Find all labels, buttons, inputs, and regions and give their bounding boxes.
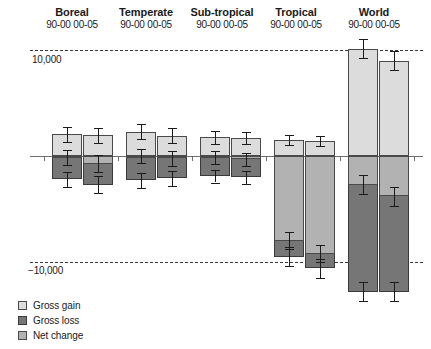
group-periods: 90-00 00-05 bbox=[36, 19, 108, 31]
error-bar-gross-gain bbox=[141, 124, 142, 139]
error-bar-net-change-cap bbox=[211, 151, 220, 152]
error-bar-gross-gain-cap bbox=[390, 70, 399, 71]
legend-item-net-change: Net change bbox=[18, 328, 83, 343]
error-bar-gross-gain bbox=[246, 132, 247, 145]
legend-item-gross-gain: Gross gain bbox=[18, 298, 83, 313]
legend-label: Gross loss bbox=[33, 315, 79, 326]
error-bar-gross-gain-cap bbox=[63, 142, 72, 143]
error-bar-net-change-cap bbox=[316, 245, 325, 246]
group-header-temperate: Temperate 90-00 00-05 bbox=[110, 6, 182, 31]
chart-legend: Gross gain Gross loss Net change bbox=[18, 298, 83, 343]
error-bar-gross-loss-cap bbox=[359, 282, 368, 283]
error-bar-gross-gain-cap bbox=[316, 136, 325, 137]
error-bar-net-change bbox=[98, 155, 99, 172]
error-bar-net-change-cap bbox=[94, 155, 103, 156]
error-bar-gross-gain-cap bbox=[137, 139, 146, 140]
axis-tick bbox=[118, 156, 119, 161]
error-bar-net-change-cap bbox=[168, 166, 177, 167]
error-bar-net-change bbox=[67, 150, 68, 165]
error-bar-net-change-cap bbox=[137, 149, 146, 150]
axis-tick bbox=[192, 156, 193, 161]
error-bar-gross-loss-cap bbox=[63, 187, 72, 188]
error-bar-gross-gain-cap bbox=[94, 143, 103, 144]
axis-tick bbox=[44, 156, 45, 161]
bar-net-change bbox=[305, 156, 335, 254]
error-bar-gross-gain-cap bbox=[211, 131, 220, 132]
group-header-boreal: Boreal 90-00 00-05 bbox=[36, 6, 108, 31]
error-bar-gross-loss-cap bbox=[211, 183, 220, 184]
error-bar-gross-gain-cap bbox=[63, 127, 72, 128]
gridline-label-top: 10,000 bbox=[32, 54, 61, 65]
error-bar-gross-loss-cap bbox=[390, 301, 399, 302]
bar-net-change bbox=[274, 156, 304, 241]
axis-tick bbox=[414, 156, 415, 161]
group-title: Sub-tropical bbox=[182, 6, 262, 18]
error-bar-gross-gain bbox=[394, 51, 395, 70]
error-bar-net-change-cap bbox=[137, 163, 146, 164]
error-bar-net-change-cap bbox=[168, 151, 177, 152]
error-bar-gross-loss-cap bbox=[390, 282, 399, 283]
axis-tick bbox=[266, 156, 267, 161]
error-bar-gross-gain bbox=[172, 128, 173, 143]
error-bar-net-change bbox=[289, 232, 290, 249]
legend-label: Net change bbox=[33, 330, 83, 341]
error-bar-net-change-cap bbox=[242, 166, 251, 167]
legend-swatch-icon bbox=[18, 331, 27, 340]
error-bar-net-change-cap bbox=[63, 150, 72, 151]
error-bar-gross-loss-cap bbox=[168, 186, 177, 187]
error-bar-net-change-cap bbox=[211, 164, 220, 165]
error-bar-net-change-cap bbox=[94, 172, 103, 173]
error-bar-net-change-cap bbox=[63, 165, 72, 166]
group-header-world: World 90-00 00-05 bbox=[334, 6, 414, 31]
error-bar-gross-loss-cap bbox=[285, 266, 294, 267]
error-bar-gross-loss bbox=[363, 282, 364, 301]
error-bar-gross-gain-cap bbox=[94, 128, 103, 129]
legend-label: Gross gain bbox=[33, 300, 80, 311]
error-bar-gross-gain-cap bbox=[242, 132, 251, 133]
plot-area bbox=[30, 40, 423, 298]
legend-swatch-icon bbox=[18, 301, 27, 310]
error-bar-gross-gain bbox=[67, 127, 68, 142]
group-title: Boreal bbox=[36, 6, 108, 18]
error-bar-gross-loss-cap bbox=[94, 176, 103, 177]
group-title: World bbox=[334, 6, 414, 18]
group-periods: 90-00 00-05 bbox=[110, 19, 182, 31]
error-bar-gross-gain-cap bbox=[168, 128, 177, 129]
error-bar-gross-gain bbox=[363, 39, 364, 58]
error-bar-net-change-cap bbox=[285, 249, 294, 250]
forest-change-bar-chart: Boreal 90-00 00-05 Temperate 90-00 00-05… bbox=[0, 0, 431, 349]
error-bar-gross-gain-cap bbox=[211, 144, 220, 145]
bar-gross-gain bbox=[379, 61, 409, 156]
error-bar-gross-loss bbox=[215, 170, 216, 183]
group-header-sub-tropical: Sub-tropical 90-00 00-05 bbox=[182, 6, 262, 31]
error-bar-net-change-cap bbox=[359, 175, 368, 176]
error-bar-net-change bbox=[320, 245, 321, 262]
error-bar-gross-loss-cap bbox=[242, 171, 251, 172]
error-bar-net-change-cap bbox=[390, 206, 399, 207]
error-bar-net-change bbox=[363, 175, 364, 194]
error-bar-gross-loss bbox=[141, 173, 142, 188]
error-bar-gross-gain-cap bbox=[242, 144, 251, 145]
bar-gross-gain bbox=[348, 49, 378, 156]
error-bar-gross-loss-cap bbox=[316, 278, 325, 279]
error-bar-net-change bbox=[394, 187, 395, 206]
error-bar-gross-loss bbox=[172, 171, 173, 186]
legend-item-gross-loss: Gross loss bbox=[18, 313, 83, 328]
error-bar-gross-gain bbox=[215, 131, 216, 144]
error-bar-net-change bbox=[246, 153, 247, 166]
error-bar-net-change-cap bbox=[316, 262, 325, 263]
error-bar-net-change-cap bbox=[390, 187, 399, 188]
error-bar-gross-gain-cap bbox=[137, 124, 146, 125]
error-bar-gross-gain-cap bbox=[390, 51, 399, 52]
axis-tick bbox=[340, 156, 341, 161]
error-bar-net-change bbox=[215, 151, 216, 164]
error-bar-gross-loss-cap bbox=[211, 170, 220, 171]
error-bar-gross-gain bbox=[320, 136, 321, 147]
group-header-tropical: Tropical 90-00 00-05 bbox=[258, 6, 334, 31]
error-bar-gross-gain-cap bbox=[285, 135, 294, 136]
group-periods: 90-00 00-05 bbox=[182, 19, 262, 31]
error-bar-net-change-cap bbox=[359, 194, 368, 195]
error-bar-gross-gain-cap bbox=[359, 39, 368, 40]
error-bar-gross-gain bbox=[289, 135, 290, 146]
error-bar-gross-loss-cap bbox=[63, 172, 72, 173]
